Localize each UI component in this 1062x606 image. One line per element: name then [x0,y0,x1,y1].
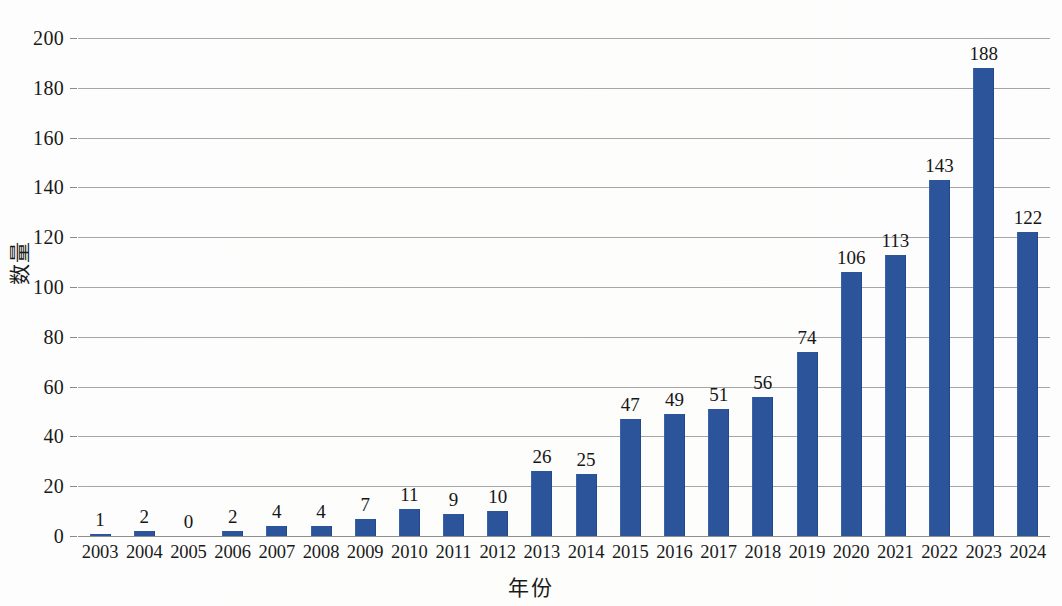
bar-value-label: 143 [910,156,970,175]
bar [708,409,729,536]
bar-value-label: 10 [468,487,528,506]
y-axis-tick-label: 0 [0,526,64,546]
bar [664,414,685,536]
y-axis-tick-label: 40 [0,426,64,446]
bar-value-label: 74 [777,328,837,347]
bar [929,180,950,536]
y-axis-tick-mark [70,287,77,288]
bar [620,419,641,536]
y-axis-tick-mark [70,187,77,188]
x-axis-title: 年份 [0,571,1062,601]
bar [487,511,508,536]
y-axis-tick-mark [70,387,77,388]
y-axis-tick-label: 180 [0,78,64,98]
bar-value-label: 188 [954,44,1014,63]
y-axis-tick-label: 60 [0,377,64,397]
bar-value-label: 113 [865,231,925,250]
bar [222,531,243,536]
y-axis-tick-mark [70,337,77,338]
y-axis-tick-mark [70,237,77,238]
y-axis-tick-mark [70,536,77,537]
bar [355,519,376,536]
gridline [78,536,1050,537]
bar-value-label: 56 [733,373,793,392]
bar [311,526,332,536]
x-axis-tick-label: 2024 [1000,543,1056,562]
y-axis-tick-label: 100 [0,277,64,297]
bar-value-label: 122 [998,208,1058,227]
y-axis-tick-mark [70,436,77,437]
y-axis-tick-label: 160 [0,128,64,148]
gridline [78,38,1050,39]
y-axis-tick-label: 120 [0,227,64,247]
bar-value-label: 106 [821,248,881,267]
gridline [78,138,1050,139]
bar [399,509,420,536]
y-axis-tick-label: 80 [0,327,64,347]
bar-chart: 数量 020406080100120140160180200 120244711… [0,0,1062,606]
y-axis-tick-mark [70,88,77,89]
y-axis-tick-mark [70,38,77,39]
bar [134,531,155,536]
bar [885,255,906,536]
bar [841,272,862,536]
y-axis-tick-label: 20 [0,476,64,496]
bar [266,526,287,536]
y-axis-tick-mark [70,138,77,139]
bar [576,474,597,536]
bar [1017,232,1038,536]
y-axis-tick-label: 140 [0,177,64,197]
bar [973,68,994,536]
bar [797,352,818,536]
bar [90,534,111,536]
bar [531,471,552,536]
y-axis-tick-mark [70,486,77,487]
y-axis-tick-label: 200 [0,28,64,48]
bar [752,397,773,536]
gridline [78,88,1050,89]
bar [443,514,464,536]
gridline [78,187,1050,188]
bar-value-label: 25 [556,450,616,469]
